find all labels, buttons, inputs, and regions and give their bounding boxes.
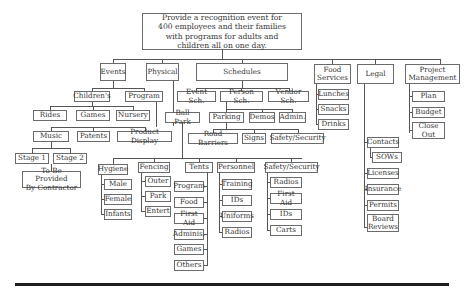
- node-events: Events: [100, 63, 126, 81]
- horizontal-connector: [204, 249, 207, 250]
- node-t-food: Food: [174, 197, 204, 208]
- vertical-connector: [222, 50, 223, 59]
- node-entert: Entert: [145, 206, 171, 217]
- node-plan: Plan: [412, 91, 445, 102]
- node-product-display: Product Display: [117, 131, 172, 142]
- node-snacks: Snacks: [318, 104, 349, 115]
- node-sows: SOWs: [372, 152, 402, 163]
- horizontal-connector: [50, 106, 133, 107]
- vertical-connector: [409, 84, 410, 133]
- horizontal-connector: [113, 158, 302, 159]
- node-contractor: To Be Provided By Contractor: [22, 171, 81, 188]
- node-personnel: Personnel: [217, 162, 255, 173]
- node-p-uniforms: Uniforms: [222, 211, 252, 222]
- node-t-firstaid: First Aid: [174, 213, 204, 224]
- node-p-training: Training: [222, 179, 252, 190]
- node-budget: Budget: [412, 107, 445, 118]
- node-schedules: Schedules: [196, 63, 288, 81]
- horizontal-connector: [226, 109, 262, 110]
- vertical-connector: [156, 102, 157, 127]
- vertical-connector: [364, 84, 365, 228]
- node-demos: Demos: [249, 112, 275, 123]
- vertical-connector: [207, 173, 208, 266]
- node-safety1: Safety/Security: [271, 133, 324, 144]
- node-program: Program: [125, 91, 163, 102]
- work-breakdown-diagram: Provide a recognition event for 400 empl…: [0, 0, 466, 292]
- node-lunches: Lunches: [318, 89, 349, 100]
- horizontal-connector: [204, 265, 207, 266]
- node-male: Male: [104, 179, 132, 190]
- node-person-sch: Person Sch.: [220, 91, 263, 102]
- node-admin: Admin.: [279, 112, 306, 123]
- node-legal: Legal: [357, 64, 394, 84]
- horizontal-connector: [92, 88, 144, 89]
- node-physical: Physical: [146, 63, 179, 81]
- node-p-radios: Radios: [222, 227, 252, 238]
- node-t-adminis: Adminis.: [174, 229, 204, 240]
- node-park: Park: [145, 191, 171, 202]
- node-t-games: Games: [174, 244, 204, 255]
- node-female: Female: [104, 194, 132, 205]
- node-outer: Outer: [145, 176, 171, 187]
- node-parking: Parking: [209, 112, 244, 123]
- vertical-connector: [141, 173, 142, 212]
- node-board-reviews: Board Reviews: [367, 214, 399, 232]
- node-rides: Rides: [33, 110, 67, 121]
- node-p-ids: IDs: [222, 195, 252, 206]
- node-insurance: Insurance: [367, 184, 399, 195]
- node-childrens: Children's: [74, 91, 110, 102]
- node-signs: Signs: [242, 133, 266, 144]
- horizontal-connector: [204, 202, 207, 203]
- node-drinks: Drinks: [318, 119, 349, 130]
- node-food-services: Food Services: [314, 64, 351, 84]
- vertical-connector: [219, 173, 220, 232]
- node-licenses: Licenses: [367, 168, 399, 179]
- horizontal-connector: [32, 148, 70, 149]
- bottom-rule-divider: [15, 283, 449, 286]
- node-t-others: Others: [174, 260, 204, 271]
- node-infants: Infants: [104, 209, 132, 220]
- node-music: Music: [33, 131, 69, 142]
- node-hygiene: Hygiene: [98, 164, 128, 175]
- node-patents: Patents: [77, 131, 110, 142]
- node-games: Games: [76, 110, 110, 121]
- node-t-program: Program: [174, 181, 204, 192]
- vertical-connector: [316, 84, 317, 125]
- node-stage1: Stage 1: [15, 153, 49, 164]
- node-ball-park: Ball Park: [165, 112, 200, 123]
- node-event-sch: Event Sch.: [177, 91, 216, 102]
- node-stage2: Stage 2: [53, 153, 87, 164]
- horizontal-connector: [204, 218, 207, 219]
- node-vendor-sch: Vendor Sch.: [268, 91, 309, 102]
- horizontal-connector: [262, 109, 292, 110]
- node-s-carts: Carts: [270, 225, 302, 236]
- node-contacts: Contacts: [367, 137, 399, 148]
- node-nursery: Nursery: [116, 110, 150, 121]
- node-close-out: Close Out: [412, 122, 445, 139]
- node-tents: Tents: [185, 162, 213, 173]
- node-fencing: Fencing: [138, 162, 170, 173]
- node-permits: Permits: [367, 200, 399, 211]
- node-project-mgmt: Project Management: [405, 64, 460, 84]
- node-s-firstaid: First Aid: [270, 193, 302, 204]
- node-root: Provide a recognition event for 400 empl…: [142, 13, 302, 50]
- vertical-connector: [182, 123, 183, 158]
- node-safety2: Safety/Security: [265, 162, 318, 173]
- node-s-ids: IDs: [270, 209, 302, 220]
- vertical-connector: [113, 81, 114, 88]
- node-road-barriers: Road Barriers: [188, 133, 238, 144]
- vertical-connector: [101, 175, 102, 215]
- node-s-radios: Radios: [270, 177, 302, 188]
